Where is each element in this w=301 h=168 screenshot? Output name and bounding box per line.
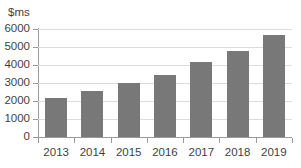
bar-chart: $ms 0100020003000400050006000 2013201420… [0,0,301,168]
x-tick-label: 2013 [38,146,74,159]
bar [263,35,285,137]
gridline [38,65,292,66]
gridline [38,29,292,30]
y-tick-label: 6000 [4,23,30,35]
y-axis-unit-label: $ms [8,6,30,19]
x-tick-label: 2019 [256,146,292,159]
x-tick-mark [111,138,112,143]
x-tick-label: 2018 [219,146,255,159]
x-tick-mark [147,138,148,143]
x-tick-mark [183,138,184,143]
x-tick-mark [292,138,293,143]
x-tick-mark [74,138,75,143]
bar [81,91,103,137]
bar [118,83,140,137]
x-tick-label: 2015 [111,146,147,159]
x-tick-label: 2014 [74,146,110,159]
bar [190,62,212,137]
x-tick-label: 2016 [147,146,183,159]
bar [45,98,67,137]
y-tick-label: 0 [24,131,30,143]
y-tick-label: 3000 [4,77,30,89]
bar [227,51,249,137]
y-tick-label: 1000 [4,113,30,125]
plot-area [38,29,292,137]
bar [154,75,176,137]
x-tick-mark [219,138,220,143]
x-tick-mark [256,138,257,143]
y-tick-label: 5000 [4,41,30,53]
gridline [38,137,292,138]
y-tick-label: 2000 [4,95,30,107]
x-tick-label: 2017 [183,146,219,159]
gridline [38,47,292,48]
y-tick-label: 4000 [4,59,30,71]
x-tick-mark [38,138,39,143]
